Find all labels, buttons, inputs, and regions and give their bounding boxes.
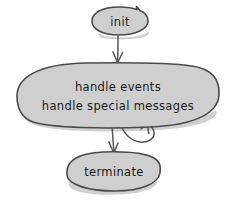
node-terminate[interactable]: terminate — [67, 152, 160, 191]
handle-node-label-line1: handle events — [75, 80, 161, 94]
state-diagram: init handle events handle special messag… — [0, 0, 235, 202]
terminate-node-label: terminate — [84, 165, 144, 179]
edge-init-to-handle-line — [118, 36, 119, 61]
edge-init-to-handle — [113, 36, 123, 63]
node-init[interactable]: init — [92, 7, 148, 36]
diagram-canvas: init handle events handle special messag… — [0, 0, 235, 202]
node-handle-events[interactable]: handle events handle special messages — [17, 63, 219, 128]
init-node-label: init — [110, 15, 130, 29]
handle-node-label-line2: handle special messages — [42, 99, 194, 113]
handle-node-shape[interactable] — [17, 63, 219, 128]
